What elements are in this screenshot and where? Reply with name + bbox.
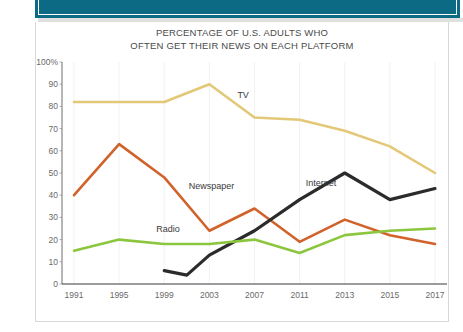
x-axis-tick-2015: 2015 bbox=[380, 290, 399, 300]
chart-title: PERCENTAGE OF U.S. ADULTS WHO OFTEN GET … bbox=[35, 26, 449, 52]
series-label-internet: Internet bbox=[306, 178, 337, 188]
chart-plot-area: 100%9080706050403020100 1991199519992003… bbox=[22, 52, 452, 322]
y-axis-tick-10: 10 bbox=[49, 257, 59, 267]
x-axis-tick-2007: 2007 bbox=[245, 290, 264, 300]
series-label-newspaper: Newspaper bbox=[189, 181, 235, 191]
teal-header-banner-inner bbox=[38, 0, 457, 15]
x-axis-tick-2017: 2017 bbox=[426, 290, 445, 300]
y-axis-tick-50: 50 bbox=[49, 168, 59, 178]
series-label-tv: TV bbox=[237, 90, 249, 100]
x-axis-tick-1991: 1991 bbox=[65, 290, 84, 300]
y-axis-tick-80: 80 bbox=[49, 101, 59, 111]
chart-gridlines bbox=[74, 62, 435, 284]
x-axis-tick-labels: 199119951999200320072011201320152017 bbox=[65, 290, 445, 300]
y-axis-tick-60: 60 bbox=[49, 146, 59, 156]
y-axis-tick-90: 90 bbox=[49, 79, 59, 89]
chart-title-line-2: OFTEN GET THEIR NEWS ON EACH PLATFORM bbox=[35, 39, 449, 52]
y-axis-tick-20: 20 bbox=[49, 235, 59, 245]
x-axis-tick-2013: 2013 bbox=[335, 290, 354, 300]
y-axis-tick-0: 0 bbox=[53, 279, 58, 289]
x-axis-tick-2011: 2011 bbox=[290, 290, 309, 300]
chart-title-line-1: PERCENTAGE OF U.S. ADULTS WHO bbox=[35, 26, 449, 39]
series-label-radio: Radio bbox=[156, 224, 180, 234]
line-chart-svg: 100%9080706050403020100 1991199519992003… bbox=[22, 52, 452, 322]
y-axis-tick-labels: 100%9080706050403020100 bbox=[36, 57, 62, 289]
x-axis-tick-2003: 2003 bbox=[200, 290, 219, 300]
x-axis-tick-1995: 1995 bbox=[110, 290, 129, 300]
y-axis-tick-30: 30 bbox=[49, 212, 59, 222]
y-axis-tick-70: 70 bbox=[49, 124, 59, 134]
teal-header-banner bbox=[35, 0, 460, 18]
chart-page: PERCENTAGE OF U.S. ADULTS WHO OFTEN GET … bbox=[0, 0, 463, 332]
y-axis-tick-100: 100% bbox=[36, 57, 58, 67]
banner-drop-shadow bbox=[38, 18, 463, 22]
y-axis-tick-40: 40 bbox=[49, 190, 59, 200]
x-axis-tick-1999: 1999 bbox=[155, 290, 174, 300]
